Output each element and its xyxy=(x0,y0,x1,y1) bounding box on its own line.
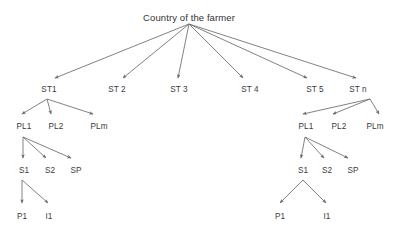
tree-edge xyxy=(189,24,356,78)
tree-edge xyxy=(305,137,324,158)
node-right-s2: S2 xyxy=(322,166,332,175)
tree-edge xyxy=(303,99,370,114)
node-right-i1: I1 xyxy=(323,212,330,221)
node-stn: ST n xyxy=(349,85,367,94)
node-left-plm: PLm xyxy=(90,122,107,131)
tree-edge xyxy=(22,99,47,114)
node-st3: ST 3 xyxy=(170,85,188,94)
node-left-i1: I1 xyxy=(45,212,52,221)
tree-edge xyxy=(303,180,326,203)
tree-edges xyxy=(22,24,379,203)
tree-edge xyxy=(123,24,189,78)
node-left-s2: S2 xyxy=(45,166,55,175)
node-right-s1: S1 xyxy=(298,166,308,175)
node-right-p1: P1 xyxy=(275,212,285,221)
node-right-plm: PLm xyxy=(366,122,383,131)
tree-edge xyxy=(23,137,71,158)
tree-edge xyxy=(189,24,243,78)
tree-edge xyxy=(301,137,305,158)
tree-edge xyxy=(23,137,46,158)
node-left-p1: P1 xyxy=(17,212,27,221)
node-right-pl2: PL2 xyxy=(332,122,347,131)
tree-edge xyxy=(55,24,189,78)
node-left-pl2: PL2 xyxy=(49,122,64,131)
tree-edge xyxy=(305,137,348,158)
tree-edge xyxy=(189,24,307,78)
tree-edge xyxy=(47,99,51,114)
node-left-pl1: PL1 xyxy=(17,122,32,131)
tree-edge xyxy=(22,180,48,203)
tree-edge xyxy=(370,99,379,114)
tree-edge xyxy=(333,99,370,114)
node-st5: ST 5 xyxy=(306,85,324,94)
node-st4: ST 4 xyxy=(241,85,259,94)
node-root: Country of the farmer xyxy=(143,12,235,23)
node-left-s1: S1 xyxy=(19,166,29,175)
tree-edge xyxy=(280,180,303,203)
node-right-sp: SP xyxy=(347,166,358,175)
node-right-pl1: PL1 xyxy=(299,122,314,131)
tree-edge xyxy=(47,99,93,114)
node-st1: ST1 xyxy=(41,85,56,94)
node-left-sp: SP xyxy=(70,166,81,175)
node-st2: ST 2 xyxy=(108,85,126,94)
hierarchy-tree-diagram: Country of the farmer ST1 ST 2 ST 3 ST 4… xyxy=(0,0,395,244)
